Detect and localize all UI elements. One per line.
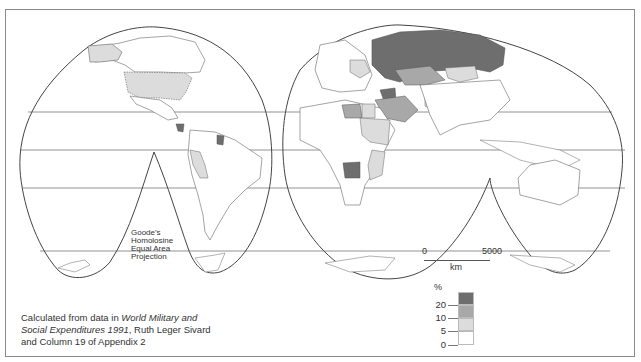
source-title: Social Expenditures 1991 <box>21 324 129 335</box>
legend-swatch-medium <box>458 305 474 318</box>
mexico <box>130 96 178 120</box>
legend-tick-line <box>448 305 458 306</box>
legend-swatch-light <box>458 318 474 331</box>
legend-unit: % <box>434 282 442 292</box>
world-map <box>0 0 641 362</box>
guyana <box>217 135 224 145</box>
angola <box>343 162 360 178</box>
legend-tick: 5 <box>428 325 446 336</box>
antarctica-west-2 <box>195 253 225 272</box>
usa <box>124 72 192 100</box>
egypt <box>362 104 375 118</box>
legend-tick-line <box>448 318 458 319</box>
libya <box>342 104 362 118</box>
projection-label-line: Projection <box>131 253 173 261</box>
south-america <box>188 130 262 240</box>
antarctica-east-2 <box>510 255 575 272</box>
source-title: World Military and <box>121 312 197 323</box>
antarctica-east-1 <box>325 256 395 272</box>
legend-swatch-dark <box>458 292 474 305</box>
source-prefix: Calculated from data in <box>21 312 121 323</box>
legend: % 20 10 5 0 <box>428 282 488 354</box>
australia <box>518 160 580 205</box>
legend-tick-line <box>448 331 458 332</box>
mozambique-zimbabwe <box>368 150 385 180</box>
legend-tick-line <box>448 345 458 346</box>
scale-line <box>424 258 490 261</box>
legend-tick: 10 <box>428 312 446 323</box>
legend-tick: 20 <box>428 299 446 310</box>
antarctica-west-1 <box>58 260 90 272</box>
scale-bar: 0 5000 km <box>422 246 502 276</box>
mongolia <box>445 66 478 82</box>
source-appendix: and Column 19 of Appendix 2 <box>21 336 211 348</box>
scale-start: 0 <box>422 246 427 256</box>
projection-label: Goode's Homolosine Equal Area Projection <box>131 229 173 261</box>
source-note: Calculated from data in World Military a… <box>21 312 211 348</box>
scale-unit: km <box>450 262 462 272</box>
china-india <box>420 80 510 135</box>
nicaragua <box>176 124 184 132</box>
legend-tick: 0 <box>428 339 446 350</box>
scale-end: 5000 <box>482 246 502 256</box>
source-author: , Ruth Leger Sivard <box>129 324 211 335</box>
legend-swatch-white <box>458 331 474 345</box>
